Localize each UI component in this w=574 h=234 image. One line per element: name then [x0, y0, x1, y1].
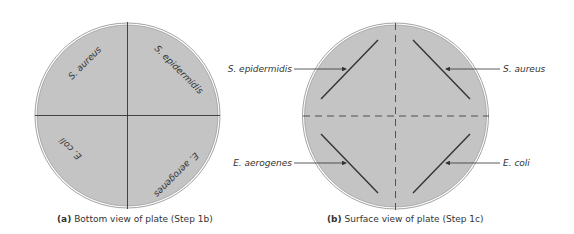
plate-bottom-view: S. aureus S. epidermidis E. coli E. aero…	[35, 22, 220, 209]
caption-b-text: Surface view of plate (Step 1c)	[345, 214, 484, 224]
callout-s-aureus: S. aureus	[503, 64, 546, 74]
callout-e-aerogenes: E. aerogenes	[233, 158, 292, 168]
callout-e-coli: E. coli	[503, 158, 530, 168]
caption-a-letter: (a)	[57, 214, 71, 224]
plate-surface-view: S. epidermidis S. aureus E. aerogenes E.…	[228, 23, 546, 210]
diagram-canvas: S. aureus S. epidermidis E. coli E. aero…	[0, 0, 574, 234]
caption-b-letter: (b)	[327, 214, 342, 224]
caption-panel-b: (b) Surface view of plate (Step 1c)	[327, 214, 484, 224]
caption-panel-a: (a) Bottom view of plate (Step 1b)	[57, 214, 213, 224]
callout-s-epidermidis: S. epidermidis	[228, 64, 293, 74]
caption-a-text: Bottom view of plate (Step 1b)	[74, 214, 212, 224]
